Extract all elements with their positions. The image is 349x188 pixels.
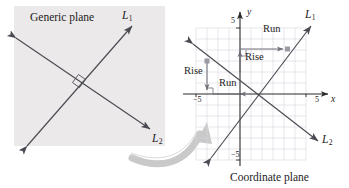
coordinate-plane-caption: Coordinate plane [230, 172, 309, 184]
generic-line-L1-label: L1 [122, 10, 132, 22]
generic-plane-background [14, 6, 165, 146]
right-angle-marker-lower-icon [207, 88, 213, 94]
left-panel-generic-plane [14, 6, 165, 146]
run-label-upper: Run [263, 24, 281, 35]
figure-perpendicular-lines-planes: Generic plane Coordinate plane L1 L2 L1 … [0, 0, 349, 188]
x-tick-negative-label: −5 [193, 96, 202, 104]
y-tick-negative-label: −5 [231, 151, 240, 159]
point-marker-L2 [205, 59, 210, 64]
y-axis-label: y [247, 8, 251, 18]
figure-graphics [0, 0, 349, 188]
coordinate-line-L2-label: L2 [322, 134, 332, 146]
x-tick-positive-label: 5 [315, 96, 319, 104]
point-marker-L1 [285, 47, 290, 52]
y-tick-positive-label: 5 [231, 17, 235, 25]
generic-line-L2-label: L2 [152, 133, 162, 145]
coordinate-line-L1-label: L1 [305, 9, 315, 21]
rise-label-upper: Rise [245, 52, 264, 63]
generic-plane-caption: Generic plane [30, 12, 94, 24]
rise-label-lower: Rise [184, 66, 203, 77]
x-axis-label: x [331, 95, 335, 105]
run-label-lower: Run [219, 78, 237, 89]
